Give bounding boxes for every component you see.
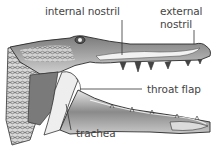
- label-throat-flap: throat flap: [147, 84, 201, 95]
- upper-jaw: [10, 36, 211, 74]
- label-external-nostril-line1: external: [160, 6, 202, 17]
- label-trachea: trachea: [76, 128, 116, 139]
- label-internal-nostril: internal nostril: [45, 6, 120, 17]
- crocodile-anatomy-diagram: internal nostril external nostril throat…: [0, 0, 221, 151]
- label-external-nostril-line2: nostril: [160, 19, 192, 30]
